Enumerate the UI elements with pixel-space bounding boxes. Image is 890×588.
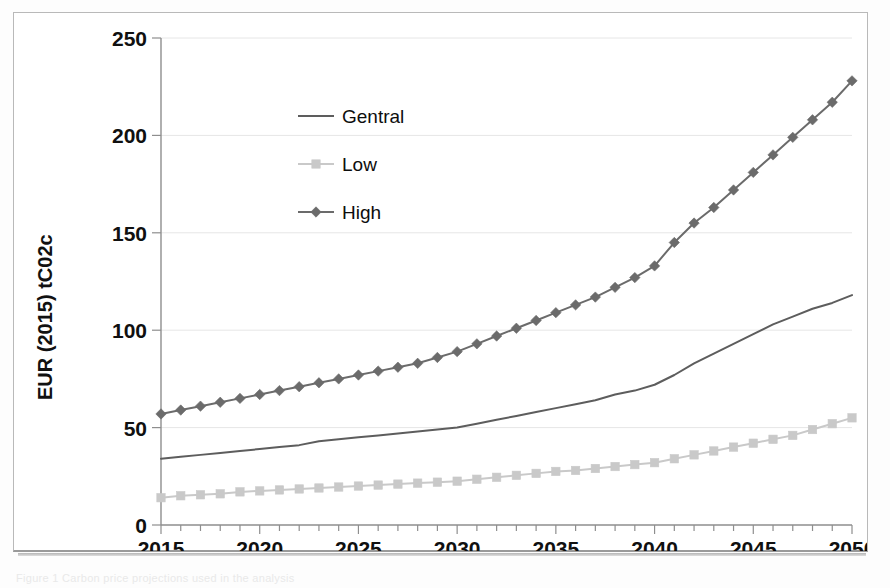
y-axis-tick-label: 0 [135,514,147,537]
data-point-marker [354,482,362,490]
data-point-marker [353,370,363,380]
data-point-marker [512,471,520,479]
data-point-marker [532,469,540,477]
data-point-marker [314,378,324,388]
x-axis-tick-label: 2050 [829,537,867,551]
data-point-marker [256,487,264,495]
data-point-marker [176,405,186,415]
data-point-marker [473,475,481,483]
data-point-marker [789,431,797,439]
data-point-marker [492,473,500,481]
legend-label: Gentral [342,106,404,127]
x-axis-tick-label: 2035 [532,537,579,551]
data-point-marker [294,381,304,391]
data-point-marker [552,467,560,475]
legend-item-gentral: Gentral [298,106,404,127]
y-axis-tick-labels: 050100150200250 [112,27,147,537]
legend-item-high: High [298,202,381,223]
data-point-marker [828,420,836,428]
data-point-marker [295,485,303,493]
data-point-marker [157,494,165,502]
data-point-marker [551,307,561,317]
data-point-marker [235,393,245,403]
x-axis-tick-label: 2045 [730,537,777,551]
y-axis-tick-label: 100 [112,319,147,342]
data-point-marker [729,443,737,451]
data-point-marker [195,401,205,411]
data-point-marker [315,484,323,492]
data-point-marker [274,385,284,395]
legend-label: High [342,202,381,223]
data-point-marker [412,358,422,368]
chart-legend: GentralLowHigh [298,106,404,223]
data-series-layer [156,76,857,502]
data-point-marker [413,479,421,487]
data-point-marker [570,300,580,310]
data-point-marker [571,466,579,474]
data-point-marker [433,478,441,486]
data-point-marker [373,366,383,376]
x-axis-tick-labels: 20152020202520302035204020452050 [138,537,867,551]
data-point-marker [394,480,402,488]
legend-item-low: Low [298,154,377,175]
x-axis-tick-label: 2030 [434,537,481,551]
line-chart: 20152020202520302035204020452050 0501001… [14,13,867,551]
data-point-marker [531,315,541,325]
data-point-marker [393,362,403,372]
legend-label: Low [342,154,377,175]
data-point-marker [177,492,185,500]
data-point-marker [710,447,718,455]
data-point-marker [215,397,225,407]
data-point-marker [275,486,283,494]
y-axis-title: EUR (2015) tC02c [34,234,57,400]
data-point-marker [156,409,166,419]
data-point-marker [312,160,320,168]
y-axis-ticks [152,38,161,525]
chart-frame: 20152020202520302035204020452050 0501001… [13,12,868,552]
data-point-marker [196,491,204,499]
data-point-marker [670,455,678,463]
x-axis-tick-label: 2015 [138,537,185,551]
axes [161,38,852,525]
y-axis-tick-label: 50 [124,417,147,440]
series-high [156,76,857,420]
data-point-marker [511,323,521,333]
data-point-marker [769,435,777,443]
data-point-marker [690,451,698,459]
data-point-marker [611,462,619,470]
data-point-marker [591,464,599,472]
figure-caption: Figure 1 Carbon price projections used i… [16,572,716,584]
y-axis-tick-label: 250 [112,27,147,50]
data-point-marker [236,488,244,496]
series-gentral [161,295,852,459]
data-point-marker [374,481,382,489]
x-axis-tick-label: 2040 [631,537,678,551]
figure-container: 20152020202520302035204020452050 0501001… [0,0,890,588]
data-point-marker [452,346,462,356]
x-axis-tick-label: 2025 [335,537,382,551]
data-point-marker [848,414,856,422]
data-point-marker [491,331,501,341]
data-point-marker [808,425,816,433]
data-point-marker [472,339,482,349]
series-line [161,418,852,498]
data-point-marker [216,490,224,498]
data-point-marker [432,352,442,362]
data-point-marker [255,389,265,399]
x-axis-ticks [161,525,852,534]
data-point-marker [749,439,757,447]
series-low [157,414,856,502]
data-point-marker [631,460,639,468]
data-point-marker [311,207,321,217]
series-line [161,81,852,414]
gridlines [161,38,852,428]
x-axis-tick-label: 2020 [236,537,283,551]
page-edge-shadow [18,553,866,556]
data-point-marker [590,292,600,302]
data-point-marker [333,374,343,384]
y-axis-tick-label: 200 [112,124,147,147]
y-axis-tick-label: 150 [112,222,147,245]
data-point-marker [630,272,640,282]
data-point-marker [453,477,461,485]
data-point-marker [650,458,658,466]
